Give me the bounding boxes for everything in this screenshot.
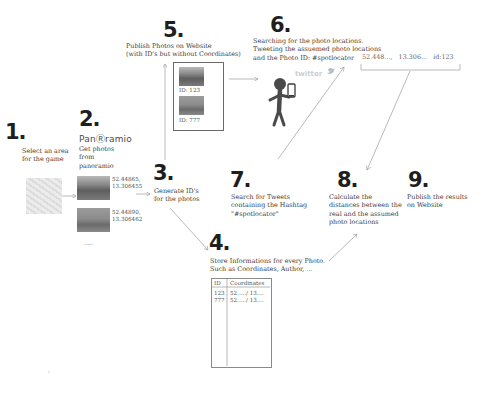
panoramio-photo-1	[77, 176, 110, 200]
more-photos-ellipsis: .....	[84, 240, 93, 247]
photo-1-coordinates: 52.44865, 13.306455	[112, 176, 142, 190]
step-4-text: Store Informations for every Photo. Such…	[210, 257, 325, 274]
arrow-3-to-4	[170, 208, 208, 250]
published-photo-1-id: ID: 123	[179, 87, 200, 94]
table-header-id: ID	[214, 280, 221, 287]
step-9-text: Publish the results on Website	[407, 193, 468, 210]
tweet-content: 52.448..., 13.306... id:123	[362, 53, 454, 61]
step-5-text: Publish Photos on Website (with ID's but…	[126, 42, 241, 59]
photo-2-coordinates: 52.44890, 13.306462	[112, 209, 142, 223]
twitter-logo-text: twitter	[295, 70, 322, 78]
step-1-number: 1.	[5, 122, 26, 143]
step-3-text: Generate ID's for the photos	[154, 187, 200, 204]
step-8-text: Calculate the distances between the real…	[329, 193, 402, 227]
table-cell: 52...../ 13....	[230, 297, 264, 304]
tweet-bracket	[361, 64, 460, 70]
step-6-number: 6.	[270, 15, 291, 36]
step-9-number: 9.	[408, 170, 429, 191]
info-table: ID Coordinates 123 52...../ 13.... 777 5…	[211, 278, 272, 368]
step-3-number: 3.	[153, 163, 174, 184]
table-cell: 777	[214, 297, 225, 304]
arrow-tweet-to-8	[367, 71, 410, 170]
step-5-number: 5.	[163, 20, 184, 41]
panoramio-logo: PanⓇramio	[79, 132, 132, 145]
step-7-number: 7.	[230, 170, 251, 191]
published-photo-2	[179, 96, 204, 115]
step-1-text: Select an area for the game	[22, 147, 69, 164]
area-map-image	[26, 178, 62, 214]
table-cell: 123	[214, 290, 225, 297]
table-header-coordinates: Coordinates	[230, 280, 264, 287]
step-7-text: Search for Tweets containing the Hashtag…	[231, 193, 307, 218]
table-cell: 52...../ 13....	[230, 290, 264, 297]
step-4-number: 4.	[209, 233, 230, 254]
person-figure-icon	[270, 78, 289, 125]
website-preview-box: ID: 123 ID: 777	[173, 62, 224, 131]
arrow-7-to-6	[278, 67, 344, 159]
published-photo-1	[179, 67, 204, 86]
step-2-text: Get photos from panoramio	[79, 145, 114, 170]
panoramio-photo-2	[77, 208, 110, 232]
step-2-number: 2.	[79, 109, 100, 130]
step-8-number: 8.	[337, 170, 358, 191]
twitter-bird-icon	[327, 68, 335, 74]
published-photo-2-id: ID: 777	[179, 117, 200, 124]
arrow-4-to-8	[329, 234, 357, 261]
smartphone-icon	[288, 84, 295, 97]
